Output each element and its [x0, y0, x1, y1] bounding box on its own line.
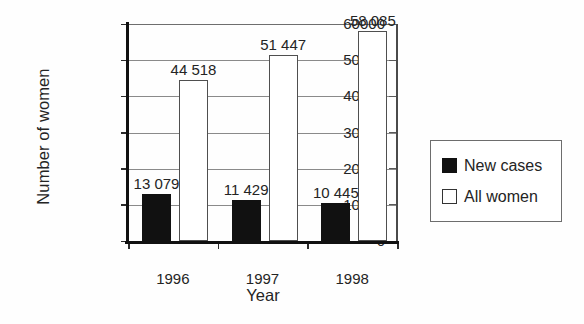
bar-new-cases-1998	[321, 203, 350, 241]
x-axis-tick-label-1996: 1996	[128, 270, 218, 287]
filled-square-icon	[442, 158, 457, 173]
bar-chart-figure: Number of women Year 0100002000030000400…	[0, 0, 584, 324]
legend-item: All women	[442, 181, 561, 212]
y-axis-spine	[126, 22, 129, 243]
y-axis-title: Number of women	[34, 37, 53, 237]
legend-item: New cases	[442, 150, 561, 181]
x-axis-title: Year	[128, 286, 398, 305]
legend-item-label: All women	[464, 188, 538, 206]
x-axis-tick-label-1997: 1997	[218, 270, 308, 287]
x-axis-spine	[125, 241, 399, 244]
bar-value-label: 13 079	[109, 175, 205, 192]
hollow-square-icon	[442, 189, 457, 204]
bar-all-women-1996	[179, 80, 208, 241]
bar-all-women-1998	[358, 31, 387, 241]
bar-value-label: 51 447	[235, 36, 331, 53]
bar-value-label: 44 518	[146, 61, 242, 78]
right-axis-spine	[396, 24, 398, 242]
bar-value-label: 11 429	[198, 181, 294, 198]
bar-value-label: 10 445	[288, 184, 384, 201]
x-axis-tick-label-1998: 1998	[307, 270, 397, 287]
bar-new-cases-1997	[232, 200, 261, 241]
bar-all-women-1997	[269, 55, 298, 241]
chart-legend: New casesAll women	[430, 140, 562, 222]
bar-value-label: 58 085	[325, 12, 421, 29]
bar-new-cases-1996	[142, 194, 171, 241]
plot-area: 0100002000030000400005000060000 13 07944…	[128, 24, 397, 241]
legend-item-label: New cases	[464, 157, 542, 175]
